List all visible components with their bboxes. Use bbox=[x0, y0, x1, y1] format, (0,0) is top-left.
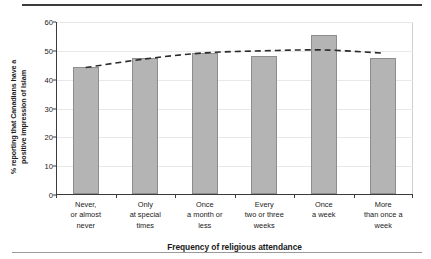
trend-line bbox=[56, 22, 413, 195]
y-tick-label: 20 bbox=[45, 133, 53, 142]
x-tick-label: Everytwo or threeweeks bbox=[235, 200, 295, 231]
x-tick-label-line: than once a bbox=[354, 210, 414, 220]
chart-figure: % reporting that Canadians have a positi… bbox=[0, 8, 431, 248]
x-tick-label-line: Only bbox=[116, 200, 176, 210]
x-tick-mark bbox=[56, 195, 57, 198]
x-tick-mark bbox=[175, 195, 176, 198]
x-tick-label-line: a week bbox=[294, 210, 354, 220]
x-tick-label-line: weeks bbox=[235, 221, 295, 231]
x-tick-label: Never,or almostnever bbox=[56, 200, 116, 231]
y-tick-label: 60 bbox=[45, 18, 53, 27]
x-tick-mark bbox=[412, 195, 413, 198]
y-tick-label: 10 bbox=[45, 162, 53, 171]
y-tick-label: 30 bbox=[45, 104, 53, 113]
x-tick-label-line: less bbox=[175, 221, 235, 231]
y-axis-title: % reporting that Canadians have a positi… bbox=[6, 30, 32, 205]
y-tick-label: 50 bbox=[45, 46, 53, 55]
x-axis-labels: Never,or almostneverOnlyat specialtimesO… bbox=[56, 200, 413, 242]
top-rule bbox=[22, 4, 422, 6]
x-axis-title: Frequency of religious attendance bbox=[56, 242, 413, 252]
x-tick-label-line: a month or bbox=[175, 210, 235, 220]
x-tick-label-line: never bbox=[56, 221, 116, 231]
x-tick-label: Morethan once aweek bbox=[354, 200, 414, 231]
x-tick-label: Oncea week bbox=[294, 200, 354, 221]
x-tick-label-line: Never, bbox=[56, 200, 116, 210]
bottom-rule bbox=[12, 252, 422, 253]
y-axis-title-line-1: % reporting that Canadians have a bbox=[9, 60, 19, 175]
x-tick-label: Onlyat specialtimes bbox=[116, 200, 176, 231]
x-tick-mark bbox=[354, 195, 355, 198]
x-tick-label: Oncea month orless bbox=[175, 200, 235, 231]
x-tick-label-line: Once bbox=[175, 200, 235, 210]
x-tick-mark bbox=[294, 195, 295, 198]
x-tick-mark bbox=[235, 195, 236, 198]
x-tick-label-line: two or three bbox=[235, 210, 295, 220]
y-tick-label: 40 bbox=[45, 75, 53, 84]
x-tick-label-line: week bbox=[354, 221, 414, 231]
x-tick-label-line: times bbox=[116, 221, 176, 231]
y-axis-title-line-2: positive impression of Islam bbox=[19, 70, 29, 164]
x-tick-label-line: or almost bbox=[56, 210, 116, 220]
x-tick-label-line: at special bbox=[116, 210, 176, 220]
x-tick-label-line: Every bbox=[235, 200, 295, 210]
x-tick-label-line: More bbox=[354, 200, 414, 210]
x-tick-label-line: Once bbox=[294, 200, 354, 210]
trend-line-path bbox=[86, 50, 384, 68]
plot-area: 0102030405060 bbox=[56, 22, 413, 195]
x-tick-mark bbox=[116, 195, 117, 198]
